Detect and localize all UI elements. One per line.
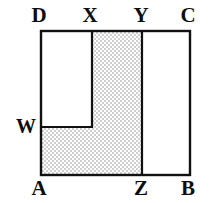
vertex-label-A: A (30, 178, 48, 199)
geometry-figure: D X Y C W A Z B (0, 0, 210, 203)
vertex-label-W: W (16, 116, 36, 137)
vertex-label-C: C (179, 5, 197, 26)
vertex-label-Y: Y (132, 5, 150, 26)
vertex-label-Z: Z (132, 178, 150, 199)
segment-X-to-W (41, 31, 92, 127)
vertex-label-X: X (81, 5, 99, 26)
vertex-label-D: D (30, 5, 48, 26)
figure-canvas (0, 0, 210, 203)
vertex-label-B: B (179, 178, 197, 199)
